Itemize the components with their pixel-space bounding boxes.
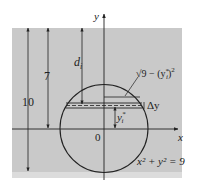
submerged-plate-diagram: y x 0 10 7 di √9 − (y*i)2 Δy y*i x² + y²… [0, 0, 208, 187]
water-bottom-band [12, 172, 182, 178]
y-axis-label: y [93, 10, 99, 22]
half-width-label: √9 − (y*i)2 [136, 66, 175, 81]
x-axis-label: x [177, 131, 183, 143]
depth-center-label: 7 [44, 69, 50, 83]
depth-total-label: 10 [22, 95, 34, 109]
strip-height-label: Δy [147, 99, 160, 111]
circle-equation-label: x² + y² = 9 [136, 155, 185, 167]
origin-label: 0 [95, 131, 101, 143]
